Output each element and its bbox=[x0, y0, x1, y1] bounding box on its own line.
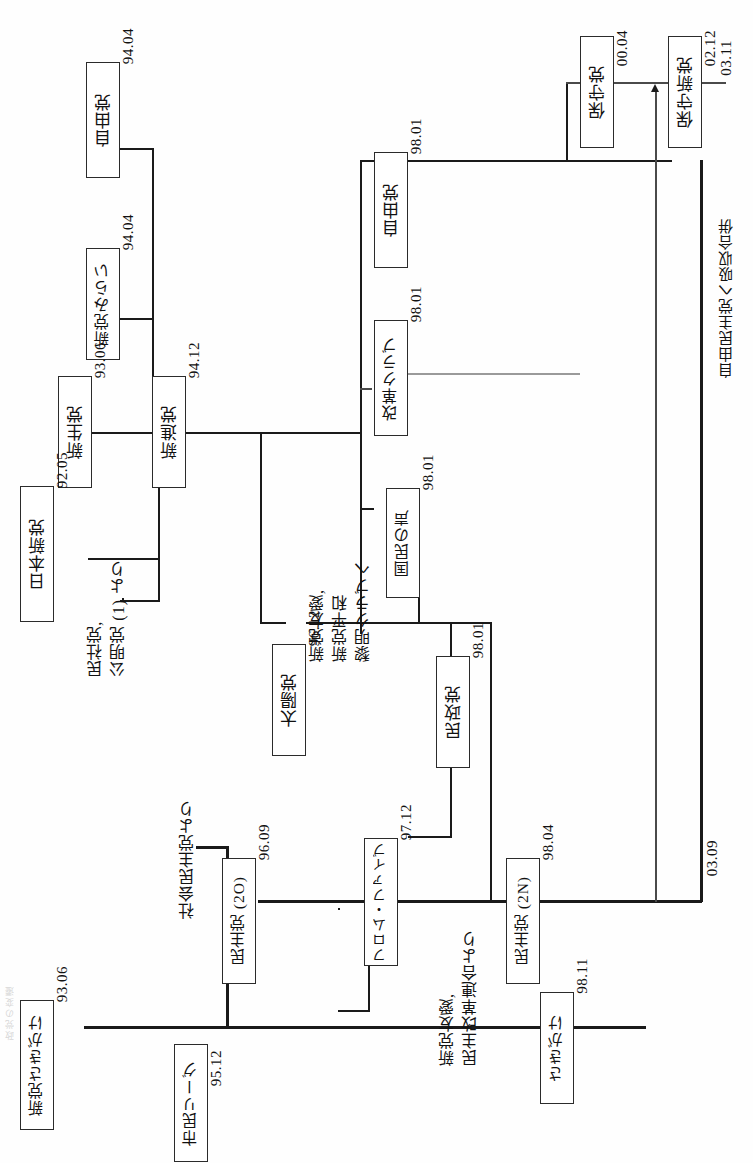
figure-edge-caption: 政党の変遷 bbox=[2, 790, 15, 1040]
connector-minshuto2o-spine bbox=[258, 900, 702, 903]
node-date-minshuto2n: 98.04 bbox=[540, 824, 557, 860]
annotation-shinto-yuai-heiwa: 新党友愛, 新党平和 黎明クラブへ bbox=[306, 560, 376, 662]
node-date-shinseito: 93.06 bbox=[92, 342, 109, 378]
annotation-kyushu-gappei: 自由民主党へ吸収合併 bbox=[716, 218, 738, 378]
node-label: 市民リーグ bbox=[183, 1061, 199, 1146]
connector-jiyuto98-spine bbox=[372, 160, 672, 162]
connector-shinshinto-spine bbox=[186, 432, 362, 434]
node-label: 民主党 (2N) bbox=[515, 876, 531, 965]
node-label: 太陽党 bbox=[281, 673, 298, 727]
annotation-shakaiminshu: 社会民主党より bbox=[176, 800, 199, 919]
node-minseito[interactable]: 民政党 bbox=[436, 656, 470, 768]
connector-yuai-horizontal bbox=[338, 1010, 370, 1012]
node-nihonshinto[interactable]: 日本新党 bbox=[20, 486, 54, 622]
node-label: 新党さきがけ bbox=[29, 1014, 45, 1116]
node-label: 国民の声 bbox=[395, 509, 411, 577]
node-hoshushinto[interactable]: 保守新党 bbox=[668, 36, 702, 148]
node-label: 新進党 bbox=[161, 405, 178, 459]
connector-shinshinto-split-bar bbox=[260, 432, 262, 624]
node-date-jiyuto98: 98.01 bbox=[408, 118, 425, 154]
connector-yuai-stub bbox=[338, 908, 340, 910]
node-minshuto2o[interactable]: 民主党 (2O) bbox=[222, 858, 256, 984]
node-date-kokuminkoe: 98.01 bbox=[420, 454, 437, 490]
connector-minsha-komei-riser bbox=[158, 558, 160, 602]
node-label: 保守党 bbox=[589, 65, 606, 119]
node-jiyuto94[interactable]: 自由党 bbox=[86, 62, 120, 178]
connector-jiyuto94-riser bbox=[152, 148, 154, 320]
node-date-sakigake: 98.11 bbox=[574, 958, 591, 994]
node-shinshinto[interactable]: 新進党 bbox=[152, 376, 186, 488]
connector-2003-merger-riser bbox=[700, 160, 703, 902]
node-shiminleague[interactable]: 市民リーグ bbox=[174, 1044, 208, 1162]
connector-98cluster-to-kokuminkoe bbox=[360, 508, 374, 510]
node-kakakuclub[interactable]: 改革クラブ bbox=[374, 320, 408, 436]
node-jiyuto98[interactable]: 自由党 bbox=[374, 152, 408, 268]
node-minshuto2n[interactable]: 民主党 (2N) bbox=[506, 858, 540, 984]
node-date-hoshuto: 00.04 bbox=[614, 30, 631, 66]
node-label: 新生党 bbox=[67, 405, 84, 459]
node-date-shiminleague: 95.12 bbox=[208, 1050, 225, 1086]
hoshushinto-arrowhead bbox=[651, 84, 659, 92]
node-date-shinshinto: 94.12 bbox=[186, 342, 203, 378]
node-shintosakigake[interactable]: 新党さきがけ bbox=[20, 1000, 54, 1130]
node-date-minshuto2o: 96.09 bbox=[256, 824, 273, 860]
node-date-minseito: 98.01 bbox=[470, 622, 487, 658]
connector-split-to-taiyo bbox=[260, 622, 286, 624]
node-sakigake[interactable]: さきがけ bbox=[540, 992, 574, 1104]
node-date-shintomirai: 94.04 bbox=[120, 214, 137, 250]
connector-kakakuclub-tail bbox=[388, 373, 580, 375]
node-date-fromfive: 97.12 bbox=[398, 804, 415, 840]
node-label: 自由党 bbox=[383, 183, 400, 237]
node-date-shintosakigake: 93.06 bbox=[54, 966, 71, 1002]
connector-98cluster-to-kakakuclub bbox=[360, 388, 372, 390]
party-genealogy-diagram: 政党の変遷 bbox=[0, 0, 753, 1163]
node-taiyoto[interactable]: 太陽党 bbox=[272, 644, 306, 756]
connector-minseito-to-2n bbox=[490, 622, 492, 902]
node-label: 改革クラブ bbox=[383, 336, 399, 421]
connector-hoshuto-riser bbox=[566, 82, 568, 161]
connector-98cluster-to-jiyuto bbox=[360, 160, 372, 162]
node-date-jiyuto94: 94.04 bbox=[120, 28, 137, 64]
connector-shakaiminshu-horizontal bbox=[196, 846, 228, 849]
annotation-yuai-minshukaikaku: 新党友愛, 民主改革連合より bbox=[436, 930, 482, 1066]
node-label: フロム・ファイブ bbox=[374, 842, 388, 962]
node-label: 保守新党 bbox=[677, 56, 694, 128]
node-label: 民主党 (2O) bbox=[231, 876, 247, 965]
node-fromfive[interactable]: フロム・ファイブ bbox=[364, 838, 398, 966]
node-label: 民政党 bbox=[445, 685, 462, 739]
connector-hoshushinto-arrow-shaft bbox=[655, 90, 657, 902]
loose-date-0309: 03.09 bbox=[704, 840, 721, 876]
node-label: 日本新党 bbox=[29, 518, 46, 590]
loose-date-0311: 03.11 bbox=[718, 40, 735, 76]
node-date-nihonshinto: 92.05 bbox=[54, 452, 71, 488]
node-date-kakakuclub: 98.01 bbox=[408, 286, 425, 322]
connector-shinseito-spine bbox=[84, 432, 160, 434]
node-date-hoshushinto: 02.12 bbox=[702, 30, 719, 66]
node-label: さきがけ bbox=[549, 1014, 565, 1082]
node-label: 新党みらい bbox=[95, 262, 111, 347]
node-kokuminkoe[interactable]: 国民の声 bbox=[386, 488, 420, 598]
annotation-minsha-komei: 民社党, 公明党 (1) より bbox=[84, 560, 130, 677]
node-label: 自由党 bbox=[95, 93, 112, 147]
node-hoshuto[interactable]: 保守党 bbox=[580, 36, 614, 148]
